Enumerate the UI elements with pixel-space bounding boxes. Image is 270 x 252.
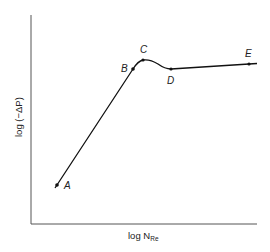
point-b-label: B bbox=[121, 63, 128, 74]
point-e-label: E bbox=[245, 48, 252, 59]
point-a-marker bbox=[55, 183, 59, 187]
point-c-marker bbox=[141, 58, 144, 61]
point-e-marker bbox=[247, 62, 250, 65]
pressure-drop-diagram: A B C D E log NRe log (−ΔP) bbox=[0, 0, 270, 252]
point-d-label: D bbox=[167, 75, 174, 86]
x-axis-label: log NRe bbox=[128, 230, 159, 242]
curve bbox=[55, 60, 257, 188]
y-axis-label: log (−ΔP) bbox=[13, 97, 24, 137]
point-c-label: C bbox=[140, 44, 148, 55]
point-b-marker bbox=[131, 67, 135, 71]
point-d-marker bbox=[169, 67, 172, 70]
point-a-label: A bbox=[63, 180, 71, 191]
